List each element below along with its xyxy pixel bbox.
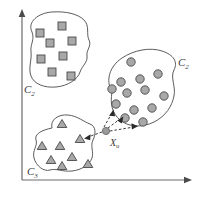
triangle-marker [83, 160, 93, 168]
triangle-markers [37, 120, 93, 170]
circle-marker [148, 104, 156, 112]
query-point-label-subscript: u [116, 142, 120, 149]
square-marker [67, 72, 75, 80]
circle-marker [108, 85, 116, 93]
square-marker [59, 52, 67, 60]
triangle-marker [46, 156, 56, 164]
circle-marker [160, 92, 168, 100]
triangle-marker [37, 142, 47, 150]
circle-marker [117, 78, 125, 86]
square-marker [36, 29, 44, 37]
arrow-to-c2-lower-head [131, 123, 138, 129]
figure-canvas: C2 C2 [0, 0, 203, 199]
circle-marker [127, 58, 135, 66]
triangle-marker [55, 142, 65, 150]
arrow-to-c2-upper-head [109, 110, 115, 117]
circle-marker [112, 100, 120, 108]
circle-marker [136, 75, 144, 83]
square-marker [37, 55, 45, 63]
triangle-marker [57, 120, 67, 128]
circle-marker [139, 118, 147, 126]
query-point-label: Xu [109, 137, 120, 149]
circle-marker [130, 106, 138, 114]
cluster-label-circles: C2 [178, 56, 189, 71]
circle-marker [141, 86, 149, 94]
cluster-triangles: C3 [27, 115, 95, 180]
cluster-circles: C2 [108, 49, 190, 126]
cluster-diagram-figure: C2 C2 [0, 0, 203, 199]
square-marker [58, 22, 66, 30]
triangle-marker [67, 153, 77, 161]
square-marker [46, 39, 54, 47]
circle-markers [108, 58, 168, 126]
arrow-to-c3-head [84, 134, 91, 140]
circle-marker [123, 89, 131, 97]
y-axis-arrowhead [19, 9, 26, 17]
cluster-label-triangles: C3 [27, 165, 38, 180]
query-point-marker [102, 127, 109, 134]
triangle-marker [75, 135, 85, 143]
cluster-label-triangles-subscript: 3 [33, 172, 38, 180]
circle-marker [154, 70, 162, 78]
square-markers [36, 22, 76, 80]
cluster-label-circles-subscript: 2 [185, 63, 189, 71]
square-marker [48, 68, 56, 76]
arrow-to-c2-lower-line [110, 127, 134, 131]
cluster-squares: C2 [24, 12, 90, 98]
cluster-label-squares: C2 [24, 83, 35, 98]
square-marker [68, 37, 76, 45]
triangle-marker [57, 162, 67, 170]
x-axis-arrowhead [184, 177, 192, 184]
cluster-label-squares-subscript: 2 [31, 90, 35, 98]
